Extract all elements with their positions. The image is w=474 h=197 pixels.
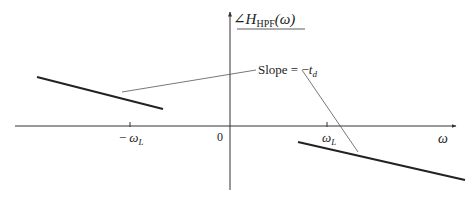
slope-annotation: Slope = −td — [258, 62, 317, 79]
tick-label-neg-omega-l: −ωL — [119, 130, 144, 147]
pointer-line-left — [122, 70, 256, 92]
tick-label-omega-l: ωL — [322, 130, 336, 147]
phase-segment-right — [298, 142, 465, 180]
phase-plot: ∠HHPF(ω) Slope = −td −ωL ωL 0 ω — [0, 0, 474, 197]
phase-segment-left — [37, 77, 163, 109]
y-axis-label: ∠HHPF(ω) — [233, 11, 295, 29]
x-axis-label: ω — [438, 131, 448, 146]
origin-label: 0 — [217, 130, 223, 144]
